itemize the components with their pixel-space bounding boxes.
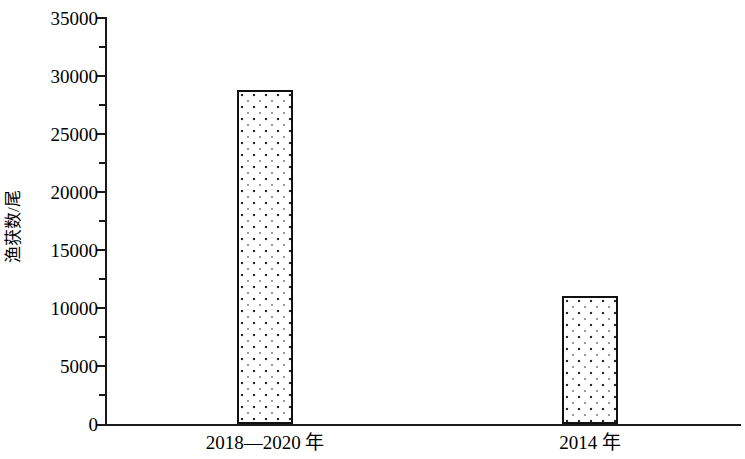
y-tick-label-20000: 20000 [26,183,98,202]
y-tick-major-5000 [97,365,106,367]
y-tick-label-5000: 5000 [26,357,98,376]
y-tick-major-15000 [97,249,106,251]
y-tick-major-10000 [97,307,106,309]
y-tick-label-30000: 30000 [26,67,98,86]
y-tick-major-30000 [97,75,106,77]
y-tick-minor-17500 [99,220,106,222]
bar-2018-2020 [237,90,293,424]
y-tick-minor-22500 [99,162,106,164]
y-tick-minor-2500 [99,394,106,396]
y-tick-major-20000 [97,191,106,193]
bar-2014 [562,296,618,424]
y-tick-minor-27500 [99,104,106,106]
y-tick-label-35000: 35000 [26,9,98,28]
y-tick-major-25000 [97,133,106,135]
bar-chart: 渔获数/尾 35000 30000 25000 20000 15000 1000… [0,0,745,459]
x-axis-line [105,424,741,426]
y-axis-tick-labels: 35000 30000 25000 20000 15000 10000 5000… [22,0,98,459]
y-tick-label-10000: 10000 [26,299,98,318]
y-tick-minor-7500 [99,336,106,338]
y-tick-label-0: 0 [26,415,98,434]
x-tick-label-2018-2020: 2018—2020 年 [185,432,345,454]
y-tick-major-0 [97,424,106,426]
y-tick-label-25000: 25000 [26,125,98,144]
y-tick-major-35000 [97,17,106,19]
x-tick-label-2014: 2014 年 [520,432,660,454]
y-axis-title: 渔获数/尾 [5,162,22,292]
y-tick-minor-12500 [99,278,106,280]
y-tick-label-15000: 15000 [26,241,98,260]
y-tick-minor-32500 [99,46,106,48]
